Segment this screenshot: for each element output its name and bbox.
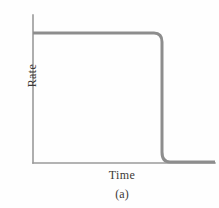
x-axis-label: Time — [82, 168, 162, 183]
figure-caption: (a) — [72, 187, 172, 202]
rate-curve — [33, 33, 215, 162]
figure-container: Rate Time (a) — [0, 0, 219, 208]
y-axis-label: Rate — [25, 54, 40, 98]
